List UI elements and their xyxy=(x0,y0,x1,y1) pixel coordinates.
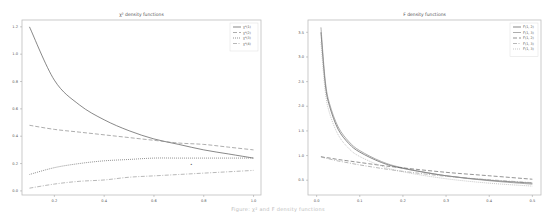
legend-entry: F(1, 3) xyxy=(523,31,534,35)
legend: χ²(1)χ²(2)χ²(3)χ²(4) xyxy=(230,23,258,51)
series-line xyxy=(29,125,253,150)
legend-entry: F(1, 3) xyxy=(523,47,534,51)
chart-1: χ² density functions0.20.40.60.81.00.00.… xyxy=(12,12,261,203)
y-tick-label: 2.0 xyxy=(298,104,304,108)
legend-entry: F(1, 2) xyxy=(523,25,534,29)
y-tick-label: 0.5 xyxy=(298,178,304,182)
x-tick-label: 0.6 xyxy=(151,199,157,203)
x-tick-label: 0.3 xyxy=(443,199,449,203)
figure-caption: Figure: χ² and F density functions xyxy=(0,206,556,212)
series-line xyxy=(29,170,253,188)
x-tick-label: 0.0 xyxy=(314,199,320,203)
y-tick-label: 2.5 xyxy=(298,80,304,84)
y-tick-label: 1.2 xyxy=(12,25,18,29)
chart-canvas: χ² density functions0.20.40.60.81.00.00.… xyxy=(0,0,556,217)
legend-entry: F(1, 3) xyxy=(523,42,534,46)
figure: χ² density functions0.20.40.60.81.00.00.… xyxy=(0,0,556,217)
y-tick-label: 0.4 xyxy=(12,134,18,138)
y-tick-label: 0.2 xyxy=(12,162,18,166)
x-tick-label: 1.0 xyxy=(251,199,257,203)
chart-title: F density functions xyxy=(403,12,446,17)
y-tick-label: 0.6 xyxy=(12,107,18,111)
series-line xyxy=(321,27,532,184)
chart-title: χ² density functions xyxy=(119,12,164,17)
x-tick-label: 0.1 xyxy=(357,199,363,203)
legend-entry: χ²(2) xyxy=(243,31,251,35)
x-tick-label: 0.4 xyxy=(486,199,492,203)
y-tick-label: 1.5 xyxy=(298,129,304,133)
series-line xyxy=(321,42,532,186)
y-tick-label: 3.5 xyxy=(298,31,304,35)
axes-frame xyxy=(308,20,541,195)
y-tick-label: 0.0 xyxy=(12,189,18,193)
x-tick-label: 0.5 xyxy=(530,199,536,203)
y-tick-label: 1.0 xyxy=(12,52,18,56)
y-tick-label: 3.0 xyxy=(298,55,304,59)
series-line xyxy=(321,157,532,183)
y-tick-label: 0.8 xyxy=(12,80,18,84)
legend-entry: F(1, 2) xyxy=(523,36,534,40)
x-tick-label: 0.4 xyxy=(101,199,107,203)
legend-entry: χ²(3) xyxy=(243,36,251,40)
series-line xyxy=(29,158,253,175)
y-tick-label: 1.0 xyxy=(298,154,304,158)
x-tick-label: 0.8 xyxy=(201,199,207,203)
chart-2: F density functions0.00.10.20.30.40.50.5… xyxy=(298,12,541,203)
legend-entry: χ²(4) xyxy=(243,42,251,46)
axes-frame xyxy=(22,20,261,195)
x-tick-label: 0.2 xyxy=(400,199,406,203)
series-line xyxy=(321,32,532,183)
series-line xyxy=(29,27,253,158)
series-line xyxy=(321,157,532,180)
annotation-marker: ▴ xyxy=(191,162,193,166)
x-tick-label: 0.2 xyxy=(52,199,58,203)
legend-entry: χ²(1) xyxy=(243,25,251,29)
legend: F(1, 2)F(1, 3)F(1, 2)F(1, 3)F(1, 3) xyxy=(510,23,538,57)
